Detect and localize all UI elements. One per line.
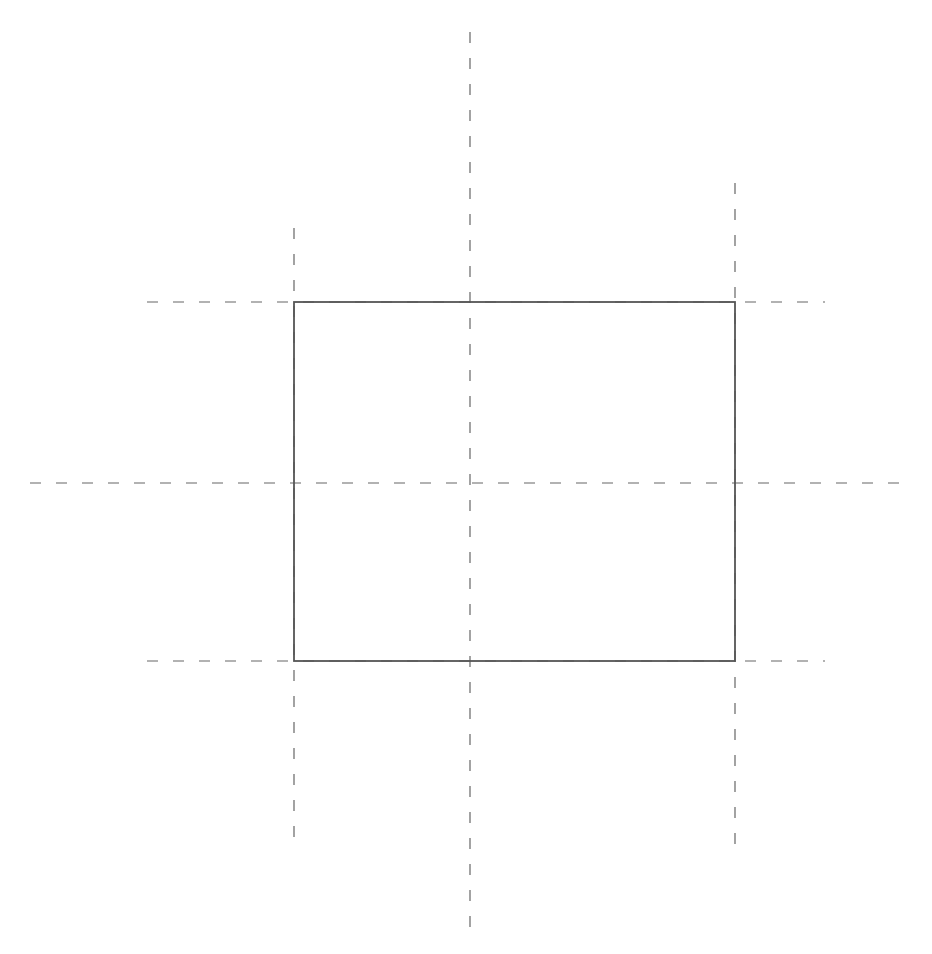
diagram-canvas bbox=[0, 0, 932, 954]
main-rectangle bbox=[294, 302, 735, 661]
